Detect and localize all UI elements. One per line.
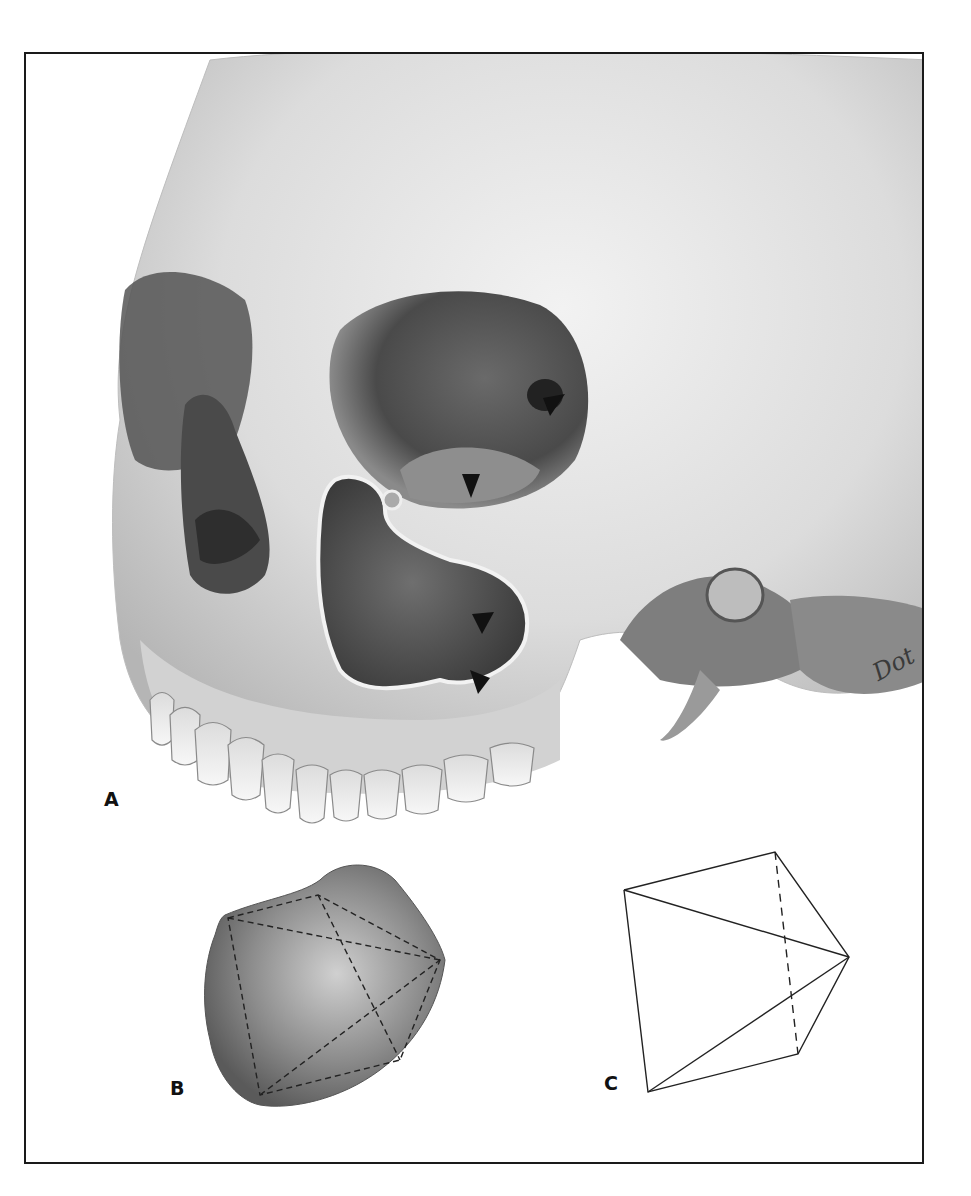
panel-label-c: C (604, 1074, 618, 1093)
anatomical-illustration (0, 0, 971, 1196)
panel-b-sinus-cast (205, 865, 445, 1106)
panel-label-b: B (170, 1079, 184, 1098)
panel-c-pyramid-diagram (624, 852, 849, 1092)
panel-label-a: A (104, 790, 119, 809)
panel-a-skull (113, 48, 931, 823)
